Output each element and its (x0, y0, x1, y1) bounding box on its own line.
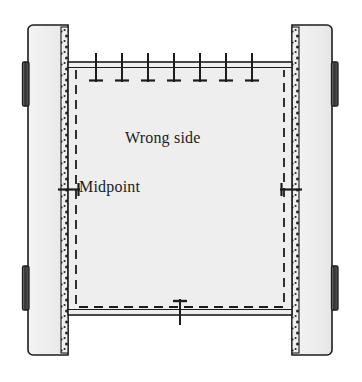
wrong-side-label: Wrong side (125, 129, 201, 147)
diagram-canvas (0, 0, 362, 382)
left-tab-lower-icon (23, 266, 30, 310)
sewing-diagram: Wrong side Midpoint (0, 0, 362, 382)
right-tab-lower-icon (332, 266, 339, 310)
left-tab-upper-icon (23, 62, 30, 106)
right-tab-upper-icon (332, 62, 339, 106)
midpoint-label: Midpoint (79, 178, 140, 196)
